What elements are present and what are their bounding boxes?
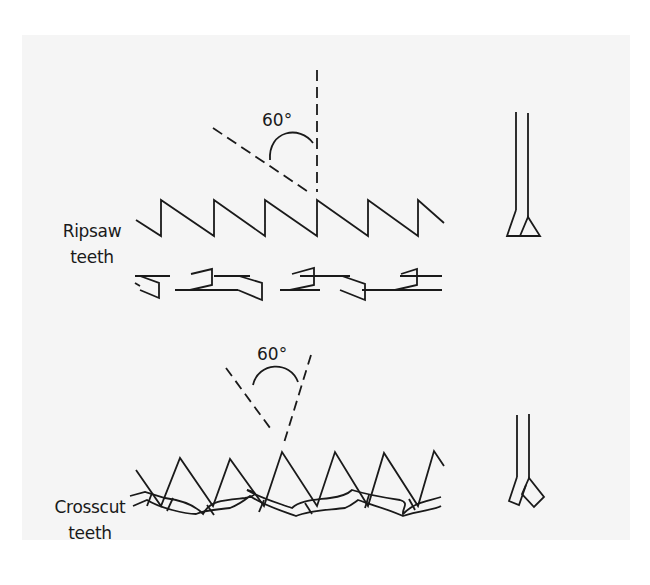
ripsaw-diagonal-dashed-line xyxy=(213,128,310,193)
crosscut-angle-guide: 60° xyxy=(226,344,311,446)
ripsaw-label: Ripsaw teeth xyxy=(48,218,136,270)
ripsaw-angle-label: 60° xyxy=(262,110,292,130)
ripsaw-label-line2: teeth xyxy=(48,244,136,270)
crosscut-blade-cross-section xyxy=(509,414,544,507)
crosscut-label-line2: teeth xyxy=(42,520,138,546)
crosscut-label: Crosscut teeth xyxy=(42,494,138,546)
crosscut-left-dashed-line xyxy=(226,368,273,432)
crosscut-label-line1: Crosscut xyxy=(42,494,138,520)
crosscut-angle-label: 60° xyxy=(257,344,287,364)
ripsaw-teeth-set-view xyxy=(135,268,442,300)
ripsaw-angle-arc xyxy=(270,133,313,160)
ripsaw-angle-guide: 60° xyxy=(213,70,317,193)
crosscut-angle-arc xyxy=(253,367,298,385)
ripsaw-blade-cross-section xyxy=(507,112,540,236)
crosscut-teeth-profile xyxy=(136,451,444,506)
crosscut-teeth-set-view xyxy=(130,490,441,516)
ripsaw-label-line1: Ripsaw xyxy=(48,218,136,244)
ripsaw-teeth-profile xyxy=(136,200,444,236)
